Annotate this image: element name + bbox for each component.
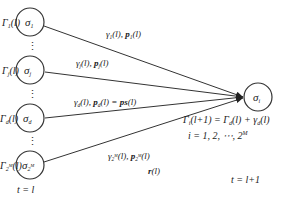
update-equation: Γi(l+1) = Γd(l) + γd(l) <box>182 114 270 126</box>
gamma-d-label: Γd(l) <box>0 113 19 125</box>
edges <box>44 26 243 162</box>
ellipsis-3: ⋮ <box>27 135 38 147</box>
edge-label-r: r(l) <box>148 166 160 176</box>
gamma-1-label: Γ1(l) <box>1 17 21 29</box>
gamma-2M-label: Γ2M(l) <box>0 160 23 172</box>
node-sigma-d: σd <box>16 104 44 132</box>
node-sigma-i: σi <box>244 83 272 111</box>
time-left-label: t = l <box>17 184 35 195</box>
edge-label-2M: γ2M(l), p2M(l) <box>108 151 150 162</box>
edge-label-j: γj(l), pj(l) <box>76 58 109 69</box>
edge-j <box>45 72 243 97</box>
node-sigma-j: σj <box>16 56 44 84</box>
edge-1 <box>44 26 243 97</box>
edge-label-1: γ1(l), p1(l) <box>106 29 141 40</box>
node-sigma-1: σ1 <box>16 8 44 36</box>
trellis-diagram: σ1 σj σd σ2M σi Γ1(l) Γj(l) Γd(l) Γ2M(l)… <box>0 0 294 199</box>
range-equation: i = 1, 2, ⋯, 2M <box>188 130 249 141</box>
ellipsis-1: ⋮ <box>27 40 38 52</box>
gamma-j-label: Γj(l) <box>1 65 19 77</box>
edge-label-d: γd(l), pd(l) = ps(l) <box>74 97 136 108</box>
ellipsis-2: ⋮ <box>27 88 38 100</box>
time-right-label: t = l+1 <box>231 174 260 185</box>
